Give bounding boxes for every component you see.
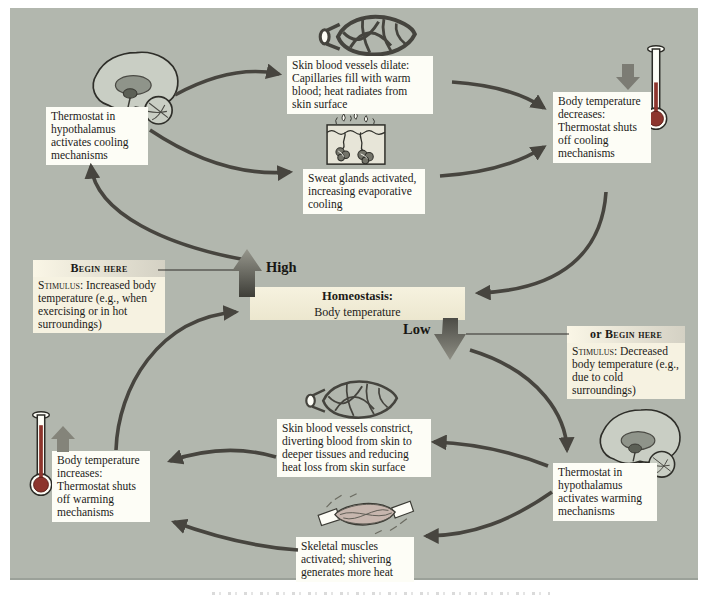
homeostasis-subtitle: Body temperature <box>250 305 465 320</box>
box-warming-thermostat: Thermostat in hypothalamus activates war… <box>553 463 657 521</box>
box-temperature-decreases: Body temperature decreases: Thermostat s… <box>553 92 651 163</box>
box-cooling-thermostat: Thermostat in hypothalamus activates coo… <box>46 107 148 165</box>
stimulus-label: Stimulus: <box>572 345 617 357</box>
box-vessels-constrict: Skin blood vessels constrict, diverting … <box>277 419 431 477</box>
box-or-begin-here: or Begin here Stimulus: Decreased body t… <box>567 326 685 399</box>
dilated-blood-vessel-icon <box>312 12 424 62</box>
low-label: Low <box>403 321 430 338</box>
homeostasis-title: Homeostasis: <box>250 289 465 305</box>
box-temperature-increases: Body temperature increases: Thermostat s… <box>52 451 150 522</box>
constricted-blood-vessel-icon <box>298 377 406 425</box>
skeletal-muscle-icon <box>307 492 423 542</box>
sweat-gland-icon <box>324 110 388 170</box>
box-skeletal-muscles: Skeletal muscles activated; shivering ge… <box>296 537 414 582</box>
box-sweat-glands: Sweat glands activated, increasing evapo… <box>303 169 425 214</box>
stimulus-label: Stimulus: <box>38 279 83 291</box>
high-label: High <box>266 259 297 276</box>
begin-here-header: Begin here <box>33 260 165 277</box>
box-vessels-dilate: Skin blood vessels dilate: Capillaries f… <box>287 56 433 114</box>
box-begin-here: Begin here Stimulus: Increased body temp… <box>33 260 165 333</box>
box-homeostasis: Homeostasis: Body temperature <box>250 287 465 320</box>
cropped-caption-sliver <box>205 592 550 595</box>
or-begin-here-header: or Begin here <box>567 326 685 343</box>
thermometer-high-icon <box>28 408 54 504</box>
